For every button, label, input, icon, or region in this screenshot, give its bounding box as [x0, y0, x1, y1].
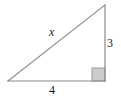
triangle-graphic [0, 0, 121, 102]
hypotenuse-line [8, 5, 105, 81]
vertical-leg-label: 3 [107, 37, 113, 49]
horizontal-leg-label: 4 [49, 84, 55, 96]
right-triangle-figure: x 3 4 [0, 0, 121, 102]
hypotenuse-label: x [49, 26, 54, 38]
right-angle-square [92, 68, 105, 81]
